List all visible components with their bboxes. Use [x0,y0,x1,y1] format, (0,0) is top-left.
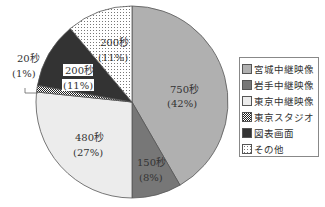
legend-label: 図表画面 [254,126,294,140]
label-studio-value: 20秒 [17,52,40,64]
label-iwate-pct: (8%) [139,172,163,183]
legend: 宮城中継映像 岩手中継映像 東京中継映像 東京スタジオ 図表画面 その他 [239,57,319,157]
legend-label: 東京中継映像 [254,94,314,108]
legend-item-miyagi: 宮城中継映像 [242,61,316,77]
legend-label: 東京スタジオ [254,110,314,124]
label-chart-pct: (11%) [63,80,93,91]
label-other-pct: (11%) [98,52,128,63]
swatch-icon [242,112,252,122]
legend-item-other: その他 [242,141,316,157]
pie-slice-2 [36,92,132,198]
label-chart-value: 200秒 [65,64,94,76]
swatch-icon [242,64,252,74]
label-miyagi-value: 750秒 [170,83,199,95]
label-studio-pct: (1%) [12,68,36,79]
leader-line [25,88,38,93]
label-miyagi-pct: (42%) [167,98,197,109]
swatch-icon [242,80,252,90]
legend-label: 岩手中継映像 [254,78,314,92]
pie-slices [36,6,228,198]
legend-item-studio: 東京スタジオ [242,109,316,125]
legend-label: その他 [254,142,284,156]
legend-label: 宮城中継映像 [254,62,314,76]
legend-item-iwate: 岩手中継映像 [242,77,316,93]
swatch-icon [242,144,252,154]
swatch-icon [242,96,252,106]
label-other-value: 200秒 [100,36,129,48]
label-tokyo-value: 480秒 [75,131,104,143]
legend-item-chart: 図表画面 [242,125,316,141]
label-iwate-value: 150秒 [137,156,166,168]
legend-item-tokyo: 東京中継映像 [242,93,316,109]
swatch-icon [242,128,252,138]
label-tokyo-pct: (27%) [73,147,103,158]
